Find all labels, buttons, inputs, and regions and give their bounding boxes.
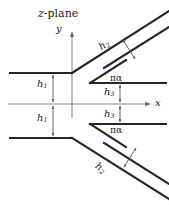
page-title: z-plane: [38, 8, 78, 19]
h1-upper-label: h1: [37, 79, 47, 90]
angle-lower-label: πα: [110, 126, 122, 135]
diagram-canvas: [0, 0, 169, 206]
z-plane-diagram: z-plane y x h1 h1 h3 h3 h2 h2 πα πα: [0, 0, 169, 206]
h3-lower-label: h3: [104, 109, 114, 120]
h3-lower-sub: 3: [110, 112, 114, 119]
x-axis-label: x: [155, 98, 161, 108]
h3-upper-sub: 3: [110, 90, 114, 97]
boundary-walls: [10, 11, 169, 199]
h1-lower-label: h1: [37, 113, 47, 124]
h1-lower-sub: 1: [43, 116, 47, 123]
h1-upper-sub: 1: [43, 82, 47, 89]
title-suffix: -plane: [44, 7, 78, 20]
axis-group: [8, 32, 150, 118]
lower-branch-outer-wall: [72, 138, 169, 199]
angle-upper-label: πα: [110, 74, 122, 83]
y-axis-label: y: [56, 24, 62, 34]
h3-upper-label: h3: [104, 87, 114, 98]
